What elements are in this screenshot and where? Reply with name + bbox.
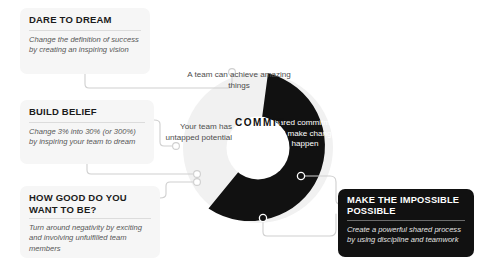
- card-divider: [29, 218, 151, 219]
- card-title: BUILD BELIEF: [29, 106, 145, 118]
- card-body: Turn around negativity by exciting and i…: [29, 223, 151, 254]
- donut-label-top: A team can achieve amazing things: [183, 70, 295, 91]
- connector-how-good: [160, 182, 193, 198]
- connector-build-belief-lower: [87, 164, 193, 174]
- node-donut-right: [297, 172, 304, 179]
- card-divider: [347, 220, 465, 221]
- card-title: HOW GOOD DO YOU WANT TO BE?: [29, 192, 151, 215]
- card-how-good-do-you-want-to-be[interactable]: HOW GOOD DO YOU WANT TO BE? Turn around …: [20, 186, 160, 258]
- card-divider: [29, 30, 141, 31]
- card-divider: [29, 122, 145, 123]
- node-donut-bottom: [259, 214, 266, 221]
- card-title: DARE TO DREAM: [29, 14, 141, 26]
- card-body: Create a powerful shared process by usin…: [347, 225, 465, 245]
- infographic-canvas: A team can achieve amazing things Your t…: [0, 0, 484, 265]
- card-make-the-impossible-possible[interactable]: MAKE THE IMPOSSIBLE POSSIBLE Create a po…: [338, 189, 474, 257]
- card-dare-to-dream[interactable]: DARE TO DREAM Change the definition of s…: [20, 8, 150, 74]
- node-left-upper: [173, 143, 180, 150]
- donut-label-left: Your team has untapped potential: [160, 122, 232, 144]
- node-left-lower: [194, 179, 201, 186]
- card-body: Change the definition of success by crea…: [29, 35, 141, 56]
- card-build-belief[interactable]: BUILD BELIEF Change 3% into 30% (or 300%…: [20, 100, 154, 164]
- card-title: MAKE THE IMPOSSIBLE POSSIBLE: [347, 195, 465, 217]
- node-left-mid: [194, 171, 201, 178]
- card-body: Change 3% into 30% (or 300%) by inspirin…: [29, 127, 145, 148]
- donut-center-label: COMMIT: [228, 117, 292, 128]
